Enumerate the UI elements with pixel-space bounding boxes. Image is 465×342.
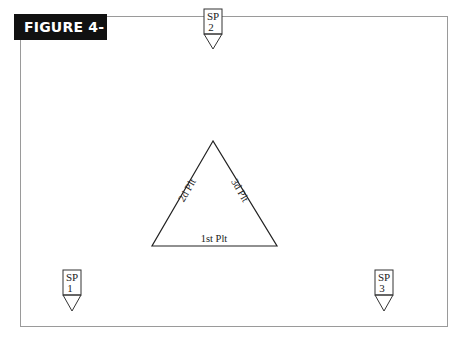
sp-marker-2: SP 2 bbox=[204, 9, 222, 49]
svg-text:2: 2 bbox=[208, 21, 214, 33]
svg-text:3: 3 bbox=[379, 282, 385, 294]
side-label-1st-plt: 1st Plt bbox=[201, 233, 228, 244]
platoon-triangle: 1st Plt 2d Plt 3d Plt bbox=[152, 141, 277, 246]
diagram: 1st Plt 2d Plt 3d Plt SP 2 SP 1 SP 3 bbox=[0, 0, 465, 342]
sp-marker-1: SP 1 bbox=[63, 270, 81, 311]
svg-text:1: 1 bbox=[67, 282, 73, 294]
side-label-3d-plt: 3d Plt bbox=[229, 177, 251, 204]
side-label-2d-plt: 2d Plt bbox=[176, 177, 198, 204]
sp-marker-3: SP 3 bbox=[375, 270, 393, 311]
